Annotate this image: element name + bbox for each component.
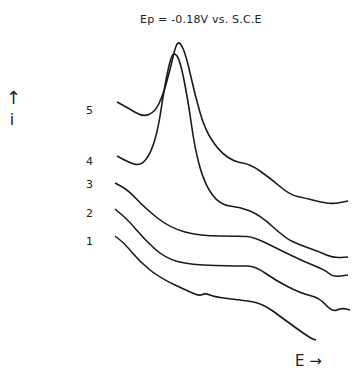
- curve-5: [117, 43, 348, 204]
- x-axis-label: E →: [295, 352, 322, 370]
- plot-area: [0, 0, 364, 387]
- curve-4: [117, 54, 348, 258]
- curve-3: [115, 183, 348, 276]
- curve-1: [115, 236, 316, 340]
- chart-figure: Ep = -0.18V vs. S.C.E ↑ i 5 4 3 2 1 E →: [0, 0, 364, 387]
- curve-2: [115, 209, 350, 310]
